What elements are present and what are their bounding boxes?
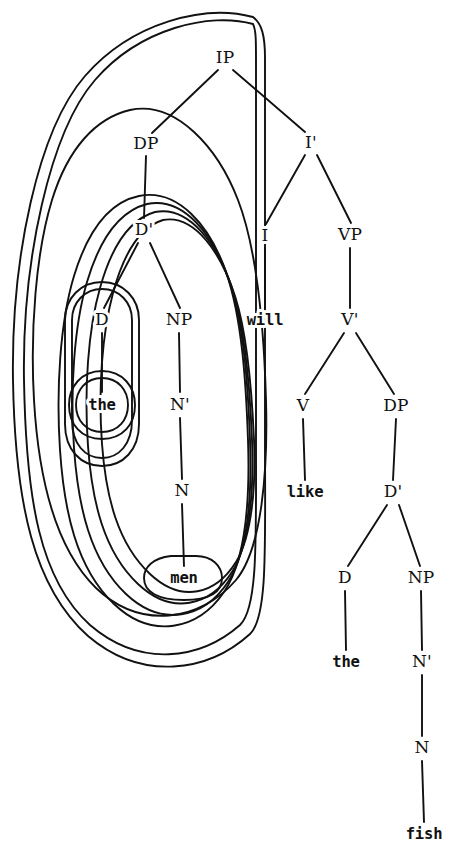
branch-d-to-the-obj [345,591,346,650]
node-label-vp: VP [337,224,362,244]
node-label-ip: IP [216,47,235,67]
node-label-vbar: V' [340,309,358,329]
branch-dp-to-dbar [144,156,146,218]
constituent-loops-group [13,13,266,667]
syntax-tree-diagram: IPIPDPDPI'I'D'D'IIVPVPDDNPNPwillwillV'V'… [0,0,459,858]
node-label-dbar_obj: D' [384,481,403,501]
branch-n-to-fish [422,761,424,822]
tree-branches-group [102,70,424,822]
branch-ip-to-ibar [233,70,305,132]
node-label-dp_subj: DP [133,133,158,153]
branch-vbar-to-v [305,333,344,394]
branch-ibar-to-i [266,155,305,224]
node-label-men: men [170,569,197,587]
node-label-d_subj: D [95,309,109,329]
branch-dbar-to-np-obj [399,505,420,566]
node-label-v_head: V [296,395,310,415]
node-label-i_head: I [262,225,269,245]
branch-np-to-nbar-obj [421,591,422,650]
loop-dp-subject [33,109,267,616]
node-label-n_subj: N [174,480,189,500]
node-label-d_obj: D [338,567,352,587]
node-label-will: will [247,311,284,329]
node-label-the_obj: the [332,653,359,671]
node-label-dp_obj: DP [383,395,408,415]
branch-dbar-to-np [150,243,180,308]
node-label-like: like [287,483,324,501]
tree-canvas: IPIPDPDPI'I'D'D'IIVPVPDDNPNPwillwillV'V'… [0,0,459,858]
branch-np-to-nbar-subj [179,333,180,392]
node-label-nbar_obj: N' [412,651,432,671]
branch-vbar-to-dp-obj [356,333,394,394]
node-label-nbar_subj: N' [170,394,190,414]
node-label-np_obj: NP [408,567,435,587]
node-label-fish: fish [406,825,443,843]
branch-dp-to-dbar-obj [393,419,396,480]
node-label-dbar_subj: D' [135,219,154,239]
branch-v-to-like [303,419,305,480]
node-label-n_obj: N [414,737,429,757]
node-label-ibar: I' [305,132,317,152]
branch-nbar-to-n-subj [180,418,182,479]
node-label-np_subj: NP [166,309,193,329]
branch-dbar-to-d-obj [348,505,387,566]
node-label-the_subj: the [88,396,115,414]
branch-ibar-to-vp [317,155,351,223]
